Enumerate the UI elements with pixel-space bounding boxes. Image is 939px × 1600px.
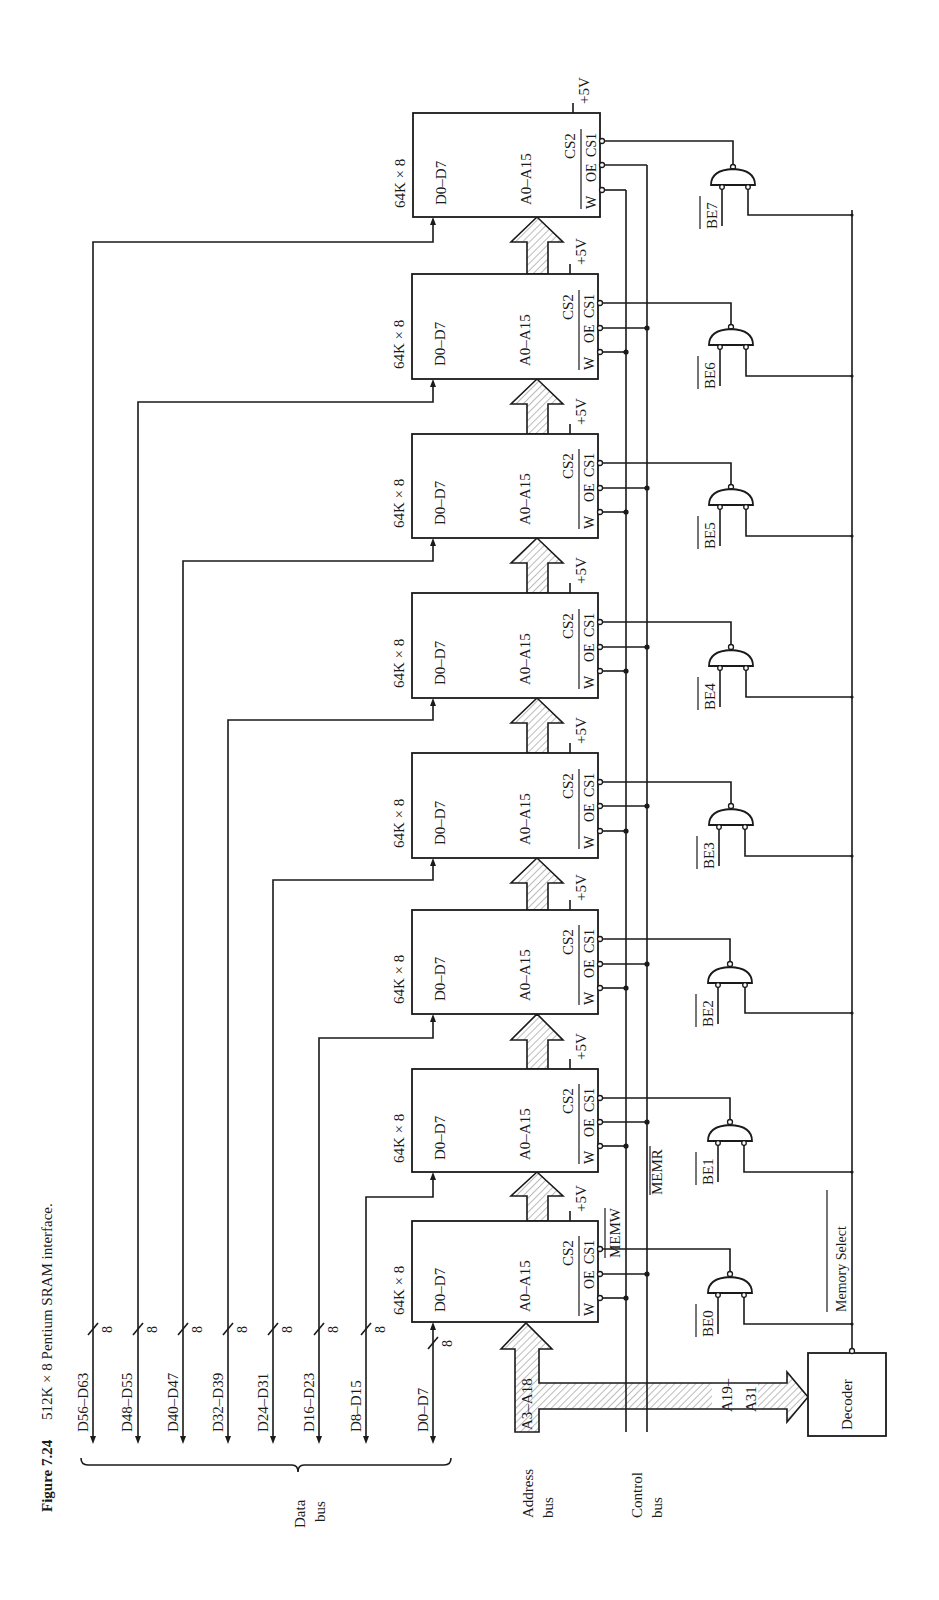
svg-text:64K × 8: 64K × 8 <box>391 639 407 688</box>
svg-text:BE4: BE4 <box>702 683 718 710</box>
svg-text:64K × 8: 64K × 8 <box>391 955 407 1004</box>
sram-chip-4: 64K × 8 D0–D7 A0–A15 CS2 W OE CS1 +5V <box>391 557 598 698</box>
svg-text:W: W <box>582 675 597 689</box>
sram-chip-6: 64K × 8 D0–D7 A0–A15 CS2 W OE CS1 +5V <box>391 238 598 379</box>
control-bus-label-line2: bus <box>649 1497 665 1518</box>
address-high-label-2: A31 <box>743 1386 759 1412</box>
svg-text:CS1: CS1 <box>584 133 599 157</box>
figure-title: 512K × 8 Pentium SRAM interface. <box>39 1203 55 1420</box>
svg-text:CS1: CS1 <box>582 773 597 797</box>
svg-text:A0–A15: A0–A15 <box>517 473 533 525</box>
data-bus: 8 8 8 8 8 8 8 8 D56–D63 D48–D55 D40–D47 … <box>75 217 455 1528</box>
svg-text:8: 8 <box>190 1326 205 1333</box>
data-arrow-heads-down <box>90 1436 436 1444</box>
sram-chip-5: 64K × 8 D0–D7 A0–A15 CS2 W OE CS1 +5V <box>391 398 598 538</box>
svg-text:64K × 8: 64K × 8 <box>391 1266 407 1315</box>
svg-text:CS2: CS2 <box>560 294 576 320</box>
bus-width-labels: 8 8 8 8 8 8 8 8 <box>100 1326 455 1347</box>
svg-text:D16–D23: D16–D23 <box>301 1373 317 1432</box>
svg-text:CS2: CS2 <box>560 1088 576 1114</box>
svg-text:8: 8 <box>280 1326 295 1333</box>
address-bus-label-line2: bus <box>540 1497 556 1518</box>
svg-text:+5V: +5V <box>573 238 589 265</box>
sram-chip-7: 64K × 8 D0–D7 A0–A15 CS2 W OE CS1 +5V <box>392 77 600 217</box>
svg-text:D0–D7: D0–D7 <box>432 800 448 845</box>
address-low-label: A3–A18 <box>519 1378 535 1430</box>
svg-text:W: W <box>582 356 597 370</box>
svg-text:A0–A15: A0–A15 <box>517 1108 533 1160</box>
gate-be7: BE7 <box>700 165 852 230</box>
svg-text:8: 8 <box>440 1340 455 1347</box>
svg-text:W: W <box>582 991 597 1005</box>
svg-text:A0–A15: A0–A15 <box>517 633 533 685</box>
svg-text:D48–D55: D48–D55 <box>119 1373 135 1432</box>
chip-control-wiring <box>601 141 733 1298</box>
svg-text:+5V: +5V <box>573 398 589 425</box>
svg-text:OE: OE <box>582 1118 597 1137</box>
data-line-d56-d63 <box>93 222 433 1440</box>
svg-text:OE: OE <box>582 324 597 343</box>
svg-text:CS2: CS2 <box>560 1240 576 1266</box>
gate-be2: BE2 <box>696 962 852 1028</box>
svg-text:OE: OE <box>582 643 597 662</box>
svg-text:BE6: BE6 <box>702 362 718 389</box>
figure-caption: Figure 7.24 512K × 8 Pentium SRAM interf… <box>39 1203 55 1512</box>
svg-text:A0–A15: A0–A15 <box>517 949 533 1001</box>
data-bus-label-line1: Data <box>292 1499 308 1528</box>
svg-text:BE5: BE5 <box>702 522 718 549</box>
svg-text:D24–D31: D24–D31 <box>255 1373 271 1432</box>
data-line-d24-d31 <box>273 863 433 1440</box>
svg-text:A0–A15: A0–A15 <box>518 153 534 205</box>
svg-text:+5V: +5V <box>573 874 589 901</box>
svg-text:CS1: CS1 <box>582 294 597 318</box>
svg-text:W: W <box>584 195 599 209</box>
gate-be3: BE3 <box>697 804 852 870</box>
svg-text:D0–D7: D0–D7 <box>415 1387 431 1432</box>
svg-text:BE0: BE0 <box>700 1310 716 1337</box>
data-line-labels: D56–D63 D48–D55 D40–D47 D32–D39 D24–D31 … <box>75 1372 431 1432</box>
sram-chip-2: 64K × 8 D0–D7 A0–A15 CS2 W OE CS1 +5V <box>391 874 598 1014</box>
address-bus-label-line1: Address <box>520 1469 536 1518</box>
svg-text:BE7: BE7 <box>704 202 720 229</box>
memr-label: MEMR <box>649 1149 665 1195</box>
sram-chip-1: 64K × 8 D0–D7 A0–A15 CS2 W OE CS1 +5V <box>391 1033 598 1172</box>
svg-text:CS1: CS1 <box>582 613 597 637</box>
svg-text:8: 8 <box>145 1326 160 1333</box>
svg-text:+5V: +5V <box>573 557 589 584</box>
svg-text:CS2: CS2 <box>560 773 576 799</box>
gate-be0: BE0 <box>696 1272 852 1338</box>
svg-text:BE3: BE3 <box>701 842 717 869</box>
sram-chip-0: 64K × 8 D0–D7 A0–A15 CS2 W OE CS1 +5V <box>391 1185 598 1322</box>
address-high-label-1: A19– <box>719 1378 735 1412</box>
svg-text:CS2: CS2 <box>560 613 576 639</box>
svg-text:D0–D7: D0–D7 <box>432 1115 448 1160</box>
svg-text:64K × 8: 64K × 8 <box>391 1114 407 1163</box>
svg-text:W: W <box>582 1150 597 1164</box>
svg-text:D0–D7: D0–D7 <box>432 956 448 1001</box>
svg-text:+5V: +5V <box>573 1033 589 1060</box>
svg-text:W: W <box>582 515 597 529</box>
svg-text:CS1: CS1 <box>582 929 597 953</box>
svg-text:D40–D47: D40–D47 <box>165 1372 181 1432</box>
svg-text:BE1: BE1 <box>700 1158 716 1185</box>
svg-text:64K × 8: 64K × 8 <box>392 159 408 208</box>
svg-text:+5V: +5V <box>573 1185 589 1212</box>
gate-be1: BE1 <box>696 1120 852 1186</box>
svg-text:OE: OE <box>582 803 597 822</box>
svg-text:CS1: CS1 <box>582 1088 597 1112</box>
svg-text:D0–D7: D0–D7 <box>432 1267 448 1312</box>
gate-be5: BE5 <box>698 485 852 550</box>
svg-text:W: W <box>582 1302 597 1316</box>
svg-text:CS2: CS2 <box>560 929 576 955</box>
svg-text:A0–A15: A0–A15 <box>517 314 533 366</box>
data-bus-brace <box>81 1458 451 1472</box>
svg-text:D56–D63: D56–D63 <box>75 1373 91 1432</box>
gate-be4: BE4 <box>698 645 852 711</box>
svg-text:CS2: CS2 <box>562 133 578 159</box>
svg-text:+5V: +5V <box>573 717 589 744</box>
gate-be6: BE6 <box>698 325 852 390</box>
address-bus-arrow <box>501 1323 808 1432</box>
data-bus-label-line2: bus <box>312 1501 328 1522</box>
svg-text:BE2: BE2 <box>700 1000 716 1027</box>
svg-text:OE: OE <box>582 1270 597 1289</box>
